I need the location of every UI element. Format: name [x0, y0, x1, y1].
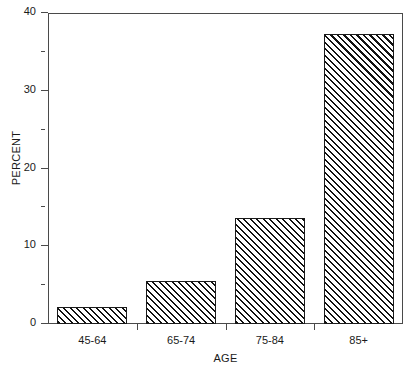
y-tick-mark — [41, 245, 48, 246]
y-tick-label: 10 — [0, 238, 36, 250]
bar-75-84 — [235, 218, 305, 324]
x-category-label-85+: 85+ — [314, 334, 403, 346]
y-tick-label: 30 — [0, 83, 36, 95]
y-tick-label: 40 — [0, 5, 36, 17]
y-tick-mark — [41, 51, 45, 52]
y-tick-mark — [41, 168, 48, 169]
x-tick-mark — [314, 324, 315, 330]
x-category-label-75-84: 75-84 — [226, 334, 315, 346]
x-category-label-45-64: 45-64 — [48, 334, 137, 346]
y-tick-mark — [41, 206, 45, 207]
y-tick-mark — [41, 323, 48, 324]
bar-45-64 — [57, 307, 127, 324]
y-tick-mark — [41, 90, 48, 91]
y-tick-label: 20 — [0, 161, 36, 173]
bar-85+ — [324, 34, 394, 324]
y-tick-mark — [41, 284, 45, 285]
bar-65-74 — [146, 281, 216, 324]
x-tick-mark — [137, 324, 138, 330]
y-tick-label: 0 — [0, 316, 36, 328]
y-tick-mark — [41, 12, 48, 13]
x-category-label-65-74: 65-74 — [137, 334, 226, 346]
y-tick-mark — [41, 129, 45, 130]
bar-chart: PERCENT 010203040 45-6465-7475-8485+ AGE — [0, 0, 415, 370]
x-axis-title: AGE — [48, 352, 403, 364]
x-tick-mark — [226, 324, 227, 330]
y-axis-title: PERCENT — [10, 98, 22, 218]
